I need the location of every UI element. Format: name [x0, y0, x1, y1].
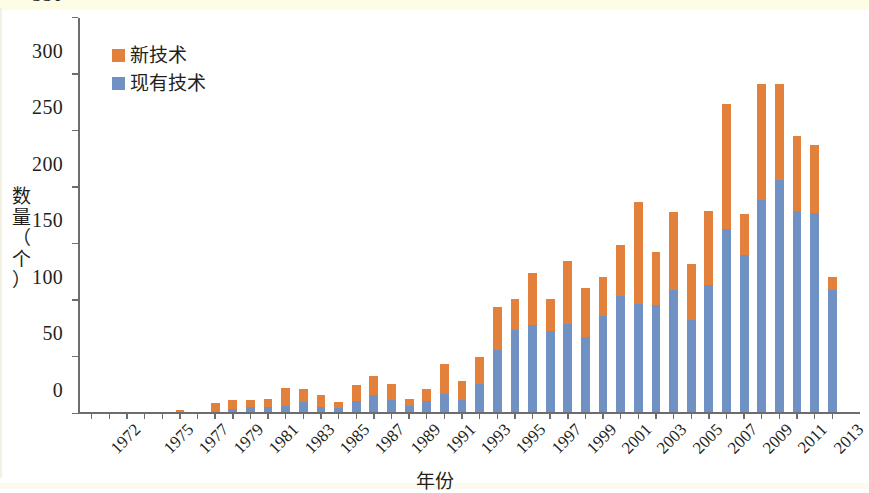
x-axis-tick [250, 414, 251, 419]
bar-segment-new-tech [828, 277, 837, 291]
bar-segment-existing-tech [634, 304, 643, 413]
bar-segment-new-tech [757, 84, 766, 199]
bar-segment-existing-tech [440, 394, 449, 412]
x-axis-tick [673, 414, 674, 419]
bar-1998 [546, 299, 555, 412]
bar-segment-existing-tech [669, 290, 678, 412]
x-axis-tick-label: 2011 [794, 420, 832, 458]
y-axis-tick-label: 100 [32, 266, 63, 289]
bar-segment-new-tech [352, 385, 361, 401]
y-axis-title-char: ） [8, 270, 34, 291]
bar-2003 [634, 202, 643, 412]
bar-segment-existing-tech [704, 285, 713, 413]
y-axis-title: 数量（个） [8, 186, 34, 291]
y-axis-title-char: 数 [8, 186, 34, 207]
bar-segment-existing-tech [528, 325, 537, 412]
bar-segment-existing-tech [722, 229, 731, 412]
bar-2012 [793, 136, 802, 412]
y-axis-tick-label: 350 [32, 0, 63, 6]
bar-1986 [334, 402, 343, 412]
x-axis-tick-label: 1975 [160, 420, 198, 458]
bar-segment-new-tech [740, 214, 749, 255]
bar-segment-existing-tech [740, 255, 749, 412]
bar-segment-new-tech [669, 212, 678, 290]
y-axis-title-char: （ [8, 228, 34, 249]
x-axis-tick [814, 414, 815, 419]
bar-segment-existing-tech [405, 406, 414, 413]
bar-1984 [299, 389, 308, 413]
top-color-band [0, 0, 869, 10]
bar-segment-existing-tech [775, 180, 784, 412]
x-axis-tick [514, 414, 515, 419]
bar-segment-existing-tech [246, 407, 255, 413]
bar-segment-new-tech [599, 277, 608, 317]
x-axis-tick [320, 414, 321, 419]
bar-2008 [722, 104, 731, 413]
bar-2009 [740, 214, 749, 412]
bar-2000 [581, 288, 590, 412]
bar-1991 [422, 389, 431, 413]
bar-segment-new-tech [581, 288, 590, 337]
x-axis-tick [585, 414, 586, 419]
bar-segment-new-tech [228, 400, 237, 409]
x-axis-tick [726, 414, 727, 419]
bar-1992 [440, 364, 449, 413]
x-axis-tick-label: 1999 [583, 420, 621, 458]
bar-segment-existing-tech [563, 324, 572, 412]
bar-segment-new-tech [652, 252, 661, 305]
x-axis-tick [761, 414, 762, 419]
x-axis-tick-label: 2013 [830, 420, 868, 458]
x-axis-tick-label: 2007 [724, 420, 762, 458]
y-axis-title-char: 量 [8, 207, 34, 228]
x-axis-tick [796, 414, 797, 419]
y-axis-title-char: 个 [8, 249, 34, 270]
x-axis-tick [91, 414, 92, 419]
bar-segment-existing-tech [652, 305, 661, 412]
left-edge-rule [0, 8, 2, 478]
y-axis-tick: 300 [72, 73, 78, 74]
plot-area: 050100150200250300350 [78, 18, 860, 414]
bar-segment-new-tech [475, 357, 484, 384]
bar-segment-existing-tech [581, 337, 590, 413]
bar-1994 [475, 357, 484, 412]
bar-2002 [616, 245, 625, 412]
bar-segment-new-tech [387, 384, 396, 400]
bar-segment-existing-tech [422, 401, 431, 412]
x-axis-tick-label: 2003 [653, 420, 691, 458]
x-axis-tick-label: 1989 [406, 420, 444, 458]
x-axis-tick [109, 414, 110, 419]
bar-segment-new-tech [458, 381, 467, 400]
y-axis-tick-label: 250 [32, 96, 63, 119]
bar-1999 [563, 261, 572, 413]
bar-segment-existing-tech [493, 350, 502, 412]
bar-segment-new-tech [634, 202, 643, 304]
x-axis-tick [126, 414, 127, 419]
bar-segment-new-tech [704, 211, 713, 285]
bar-segment-existing-tech [475, 384, 484, 412]
x-axis-tick [232, 414, 233, 419]
bar-segment-new-tech [317, 395, 326, 406]
x-axis-tick [532, 414, 533, 419]
bar-segment-new-tech [722, 104, 731, 230]
x-axis-tick [461, 414, 462, 419]
x-axis-tick [602, 414, 603, 419]
x-axis-tick [285, 414, 286, 419]
x-axis-tick-label: 1977 [195, 420, 233, 458]
bar-1977 [176, 410, 185, 412]
x-axis-tick [620, 414, 621, 419]
x-axis-tick [162, 414, 163, 419]
bar-segment-existing-tech [281, 406, 290, 413]
y-axis-tick-label: 200 [32, 153, 63, 176]
y-axis-tick-label: 50 [42, 322, 63, 345]
bar-1987 [352, 385, 361, 412]
bar-segment-new-tech [299, 389, 308, 403]
x-axis-tick [444, 414, 445, 419]
x-axis-tick-label: 1972 [107, 420, 145, 458]
y-axis-line [78, 18, 80, 414]
bar-2011 [775, 84, 784, 412]
y-axis-tick: 150 [72, 243, 78, 244]
bar-1982 [264, 399, 273, 413]
bar-segment-new-tech [211, 403, 220, 412]
bar-segment-existing-tech [334, 408, 343, 413]
